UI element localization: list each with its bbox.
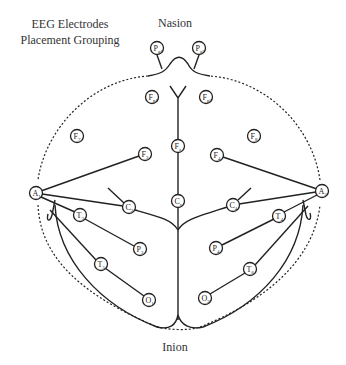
t5-o1-line <box>105 268 144 296</box>
electrode-o2: O2 <box>199 292 212 305</box>
electrode-f8: F8 <box>248 130 261 143</box>
pg2-connector <box>194 55 199 69</box>
electrode-f3: F3 <box>139 148 152 161</box>
electrode-t6: T6 <box>244 263 257 276</box>
electrode-c3: C3 <box>123 201 136 214</box>
a1-t3-line <box>41 197 75 212</box>
electrode-fp2: Fp2 <box>200 91 213 104</box>
electrode-pg2: Pg2 <box>193 42 206 55</box>
electrode-o1: O1 <box>143 294 156 307</box>
electrode-p4: P4 <box>210 242 223 255</box>
t6-o2-line <box>210 273 245 294</box>
electrode-cz: Cz <box>172 195 185 208</box>
electrode-fp1: Fp1 <box>146 91 159 104</box>
midline-fork-bottom <box>135 207 227 230</box>
c3-tick <box>108 188 124 203</box>
electrode-f4: F4 <box>211 149 224 162</box>
nose-outline <box>148 57 210 76</box>
left-lobe-curve <box>55 205 178 328</box>
pg1-connector <box>157 55 162 69</box>
electrode-t3: T3 <box>74 209 87 222</box>
midline-fork-top <box>170 86 186 140</box>
electrode-diagram: Pg1Pg2Fp1Fp2F7F8F3F4FzA1A2C3CzC4T3T4P3P4… <box>0 0 346 365</box>
electrode-a2: A2 <box>316 185 329 198</box>
electrode-t5: T5 <box>95 258 108 271</box>
a2-f4-line <box>223 157 317 189</box>
electrode-a1: A1 <box>30 187 43 200</box>
right-lobe-curve <box>178 205 303 328</box>
electrode-fz: Fz <box>172 140 185 153</box>
electrode-t4: T4 <box>273 210 286 223</box>
electrode-f7: F7 <box>71 130 84 143</box>
a2-t4-line <box>284 195 317 212</box>
electrode-c4: C4 <box>227 199 240 212</box>
c4-tick <box>238 188 251 200</box>
electrode-p3: P3 <box>134 243 147 256</box>
t3-p3-line <box>85 219 134 246</box>
a1-f3-line <box>41 156 139 191</box>
t4-p4-line <box>222 219 274 245</box>
electrode-pg1: Pg1 <box>151 42 164 55</box>
left-ear-hook <box>47 200 55 220</box>
